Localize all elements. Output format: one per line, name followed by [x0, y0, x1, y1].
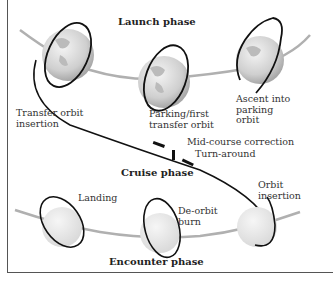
label-turn-around: Turn-around: [195, 149, 256, 160]
label-mid-course-correction: Mid-course correction: [187, 137, 294, 148]
label-parking-first-transfer: Parking/first transfer orbit: [149, 109, 214, 130]
label-orbit-insertion: Orbit insertion: [258, 180, 301, 201]
earth-globe-icon: [236, 18, 284, 93]
earth-globe-icon: [36, 16, 101, 95]
launch-phase-title: Launch phase: [118, 16, 196, 27]
label-ascent-parking-orbit: Ascent into parking orbit: [236, 94, 290, 126]
label-transfer-orbit-insertion: Transfer orbit insertion: [16, 108, 83, 129]
label-landing: Landing: [78, 193, 117, 204]
label-de-orbit-burn: De-orbit burn: [178, 206, 218, 227]
earth-globe-icon: [136, 39, 197, 117]
cruise-phase-title: Cruise phase: [121, 167, 194, 178]
encounter-phase-title: Encounter phase: [109, 256, 204, 267]
planet-icon: [237, 197, 277, 247]
